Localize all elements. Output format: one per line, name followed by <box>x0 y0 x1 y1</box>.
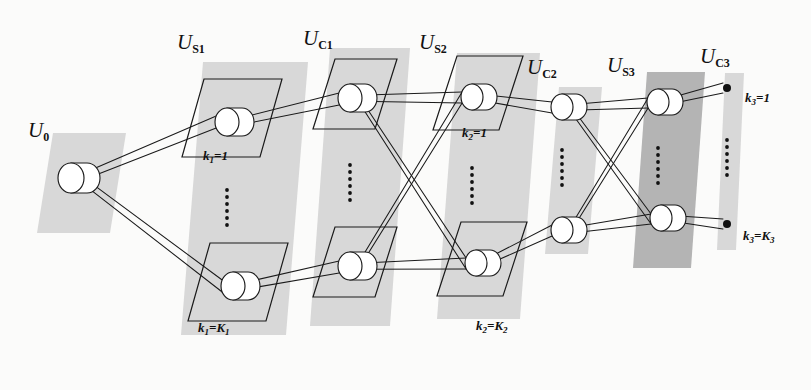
ellipsis-dot-uc2-5 <box>560 183 564 187</box>
plane-label-value: =1 <box>473 125 487 140</box>
layer-label-base: U <box>303 26 318 50</box>
layer-label-base: U <box>28 118 43 142</box>
plane-label-index: 3 <box>750 235 755 245</box>
layer-label-subscript: S2 <box>434 42 447 56</box>
ellipsis-dot-us2-0 <box>470 166 474 170</box>
plane-label-0: k1=1 <box>203 148 228 164</box>
node-us1-top <box>215 108 254 136</box>
node-us2-bottom-face <box>465 250 487 276</box>
plane-label-value-index: 1 <box>225 327 230 337</box>
plane-label-variable: k <box>745 90 752 105</box>
ellipsis-dot-us2-1 <box>470 173 474 177</box>
layer-label-us1: US1 <box>177 30 205 55</box>
ellipsis-dot-us2-5 <box>470 201 474 205</box>
layer-label-base: U <box>419 30 434 54</box>
layer-label-base: U <box>700 44 715 68</box>
plane-label-variable: k <box>462 125 469 140</box>
ellipsis-dot-uc2-2 <box>560 162 564 166</box>
plane-label-index: 2 <box>483 325 488 335</box>
node-us3-bottom <box>650 205 686 231</box>
plane-label-3: k2=K2 <box>476 318 508 334</box>
node-us3-bottom-face <box>650 205 672 231</box>
plane-label-value: =K <box>209 320 225 335</box>
ellipsis-dot-uc3-3 <box>725 159 729 163</box>
ellipsis-dot-us2-3 <box>470 187 474 191</box>
node-uc1-top <box>338 84 377 112</box>
ellipsis-dot-us1-5 <box>225 223 229 227</box>
ellipsis-dot-uc1-3 <box>348 184 352 188</box>
node-uc3-top <box>723 84 731 92</box>
plane-label-5: k3=K3 <box>743 228 775 244</box>
layer-label-base: U <box>177 30 192 54</box>
ellipsis-dot-uc1-2 <box>348 177 352 181</box>
layer-label-base: U <box>607 53 622 77</box>
ellipsis-dot-us2-4 <box>470 194 474 198</box>
layer-label-uc1: UC1 <box>303 26 333 51</box>
ellipsis-dot-us3-1 <box>656 153 660 157</box>
ellipsis-dot-uc3-4 <box>725 166 729 170</box>
layer-panels-group <box>37 48 744 335</box>
plane-label-value: =1 <box>214 148 228 163</box>
node-us1-bottom <box>221 272 260 300</box>
ellipsis-dot-us1-3 <box>225 209 229 213</box>
plane-label-value-index: 3 <box>770 235 775 245</box>
plane-label-value: =1 <box>756 90 770 105</box>
ellipsis-dot-us1-0 <box>225 188 229 192</box>
layer-label-base: U <box>527 55 542 79</box>
node-uc2-bottom-face <box>551 217 573 243</box>
node-uc2-bottom <box>551 217 587 243</box>
plane-label-index: 1 <box>205 327 210 337</box>
ellipsis-dot-uc2-1 <box>560 155 564 159</box>
plane-label-variable: k <box>743 228 750 243</box>
ellipsis-dot-us3-2 <box>656 160 660 164</box>
ellipsis-dot-us3-4 <box>656 174 660 178</box>
ellipsis-dot-us3-3 <box>656 167 660 171</box>
ellipsis-dot-uc3-0 <box>725 138 729 142</box>
node-us2-top <box>461 84 497 110</box>
ellipsis-dot-uc2-4 <box>560 176 564 180</box>
layer-label-us3: US3 <box>607 53 635 78</box>
layer-label-subscript: S3 <box>622 65 635 79</box>
layer-label-subscript: 0 <box>43 130 49 144</box>
node-u0-single <box>58 163 100 193</box>
layer-label-u0: U0 <box>28 118 49 143</box>
ellipsis-dot-uc2-3 <box>560 169 564 173</box>
layer-label-subscript: C1 <box>318 38 333 52</box>
node-uc3-bottom <box>723 220 731 228</box>
layer-label-subscript: C2 <box>542 67 557 81</box>
ellipsis-dot-uc1-0 <box>348 163 352 167</box>
node-us3-top-face <box>647 89 669 115</box>
plane-label-index: 2 <box>469 132 474 142</box>
plane-label-value: =K <box>754 228 770 243</box>
ellipsis-dot-uc3-2 <box>725 152 729 156</box>
ellipsis-dot-uc3-5 <box>725 173 729 177</box>
plane-label-2: k2=1 <box>462 125 487 141</box>
plane-label-value-index: 2 <box>503 325 508 335</box>
node-us1-top-face <box>215 108 239 136</box>
plane-label-value: =K <box>487 318 503 333</box>
ellipsis-dot-uc2-0 <box>560 148 564 152</box>
ellipsis-dot-us1-1 <box>225 195 229 199</box>
plane-label-1: k1=K1 <box>198 320 230 336</box>
node-us2-bottom <box>465 250 501 276</box>
ellipsis-dot-uc1-1 <box>348 170 352 174</box>
node-u0-single-face <box>58 163 84 193</box>
node-uc2-top-face <box>551 94 573 120</box>
node-uc1-top-face <box>338 84 362 112</box>
ellipsis-dot-us3-0 <box>656 146 660 150</box>
layer-label-uc2: UC2 <box>527 55 557 80</box>
diagram-canvas <box>0 0 811 390</box>
plane-label-index: 1 <box>210 155 215 165</box>
ellipsis-dot-uc1-4 <box>348 191 352 195</box>
network-architecture-figure: U0US1UC1US2UC2US3UC3k1=1k1=K1k2=1k2=K2k3… <box>0 0 811 390</box>
ellipsis-dot-uc1-5 <box>348 198 352 202</box>
layer-label-subscript: S1 <box>192 42 205 56</box>
plane-label-index: 3 <box>752 97 757 107</box>
node-uc2-top <box>551 94 587 120</box>
ellipsis-dot-us1-4 <box>225 216 229 220</box>
layer-label-us2: US2 <box>419 30 447 55</box>
ellipsis-dot-us2-2 <box>470 180 474 184</box>
plane-label-variable: k <box>203 148 210 163</box>
ellipsis-dot-us3-5 <box>656 181 660 185</box>
layer-label-subscript: C3 <box>715 56 730 70</box>
